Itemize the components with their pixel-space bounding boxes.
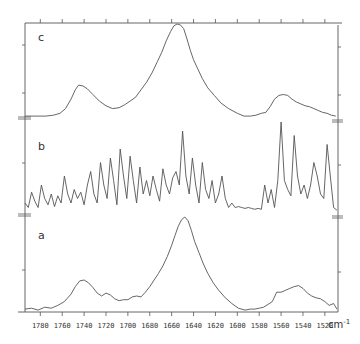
x-tick-label: 1560 bbox=[273, 322, 290, 330]
spectrum-trace-b bbox=[25, 122, 337, 210]
x-tick-label: 1620 bbox=[207, 322, 224, 330]
ir-spectra-chart: c b a 1780176017401720170016801660164016… bbox=[0, 0, 360, 344]
x-tick-labels: 1780176017401720170016801660164016201600… bbox=[32, 322, 333, 330]
axis-break-left-lower bbox=[18, 214, 31, 216]
axis-break-right-upper bbox=[332, 120, 343, 122]
x-tick-label: 1600 bbox=[229, 322, 246, 330]
x-axis-unit: cm-1 bbox=[328, 318, 350, 330]
panel-label-a: a bbox=[38, 229, 45, 242]
x-axis-unit-base: cm bbox=[328, 319, 343, 330]
x-axis-unit-exponent: -1 bbox=[343, 318, 350, 326]
x-tick-label: 1680 bbox=[141, 322, 158, 330]
x-tick-label: 1760 bbox=[54, 322, 71, 330]
x-tick-label: 1640 bbox=[185, 322, 202, 330]
x-tick-label: 1660 bbox=[163, 322, 180, 330]
x-tick-label: 1740 bbox=[76, 322, 93, 330]
panel-label-c: c bbox=[38, 31, 44, 44]
axis-break-left-upper bbox=[18, 117, 31, 119]
x-tick-label: 1780 bbox=[32, 322, 49, 330]
top-axis-ticks bbox=[40, 19, 325, 23]
x-tick-label: 1720 bbox=[98, 322, 115, 330]
axis-break-right-lower bbox=[332, 216, 343, 218]
x-tick-label: 1580 bbox=[251, 322, 268, 330]
bottom-axis-ticks bbox=[40, 312, 325, 316]
spectrum-trace-a bbox=[25, 217, 337, 310]
x-tick-label: 1540 bbox=[295, 322, 312, 330]
panel-label-b: b bbox=[38, 140, 45, 153]
x-tick-label: 1700 bbox=[119, 322, 136, 330]
spectrum-trace-c bbox=[25, 24, 336, 116]
